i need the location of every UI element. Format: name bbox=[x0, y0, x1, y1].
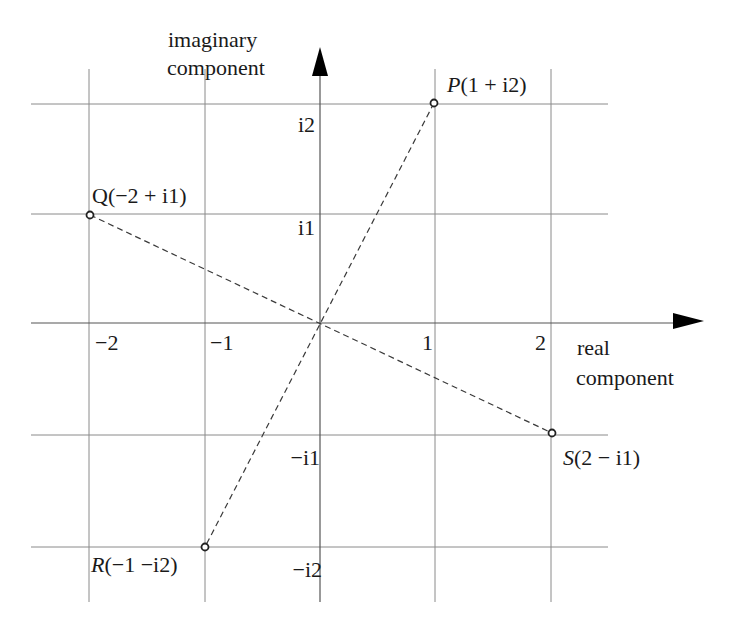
point-r-marker bbox=[202, 544, 209, 551]
point-r-letter: R bbox=[90, 552, 105, 577]
x-tick-1: 1 bbox=[422, 330, 433, 355]
point-markers bbox=[87, 100, 556, 551]
y-tick-neg2: −i2 bbox=[292, 557, 322, 582]
y-tick-2: i2 bbox=[298, 112, 315, 137]
point-s-value: (2 − i1) bbox=[574, 445, 640, 470]
point-q-letter: Q bbox=[92, 183, 108, 208]
y-tick-neg1: −i1 bbox=[290, 445, 320, 470]
point-s-label: S(2 − i1) bbox=[563, 445, 640, 470]
point-s-marker bbox=[549, 430, 556, 437]
point-s-letter: S bbox=[563, 445, 574, 470]
point-r-label: R(−1 −i2) bbox=[90, 552, 178, 577]
complex-plane-diagram: imaginary component real component −2 −1… bbox=[0, 0, 738, 635]
point-p-marker bbox=[431, 100, 438, 107]
x-axis-label-line2: component bbox=[576, 365, 674, 390]
imaginary-axis-arrow-icon bbox=[312, 47, 328, 76]
y-axis-label-line1: imaginary bbox=[168, 27, 257, 52]
real-axis-arrow-icon bbox=[673, 313, 704, 329]
segment-q-s bbox=[90, 215, 552, 433]
x-tick-neg1: −1 bbox=[210, 330, 233, 355]
point-q-value: (−2 + i1) bbox=[108, 183, 187, 208]
x-tick-2: 2 bbox=[535, 330, 546, 355]
point-p-letter: P bbox=[446, 72, 460, 97]
point-q-marker bbox=[87, 212, 94, 219]
x-tick-neg2: −2 bbox=[95, 330, 118, 355]
y-axis-label-line2: component bbox=[167, 55, 265, 80]
point-r-value: (−1 −i2) bbox=[104, 552, 177, 577]
point-p-value: (1 + i2) bbox=[460, 72, 526, 97]
x-axis-label-line1: real bbox=[577, 335, 610, 360]
y-tick-1: i1 bbox=[298, 215, 315, 240]
dashed-segments bbox=[90, 103, 552, 547]
point-p-label: P(1 + i2) bbox=[446, 72, 527, 97]
point-q-label: Q(−2 + i1) bbox=[92, 183, 186, 208]
